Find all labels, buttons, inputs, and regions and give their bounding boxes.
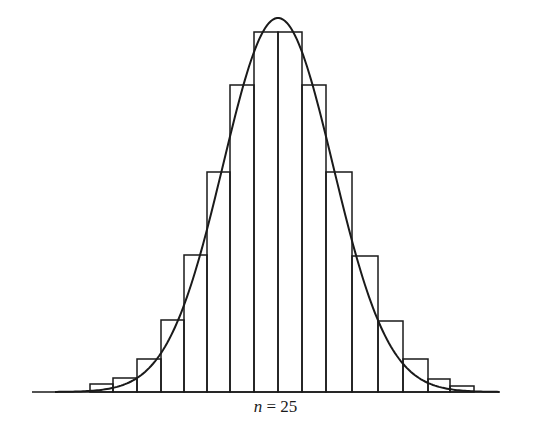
histogram-chart xyxy=(0,0,551,444)
caption-equals: = xyxy=(266,397,276,416)
histogram-bar xyxy=(352,256,378,392)
histogram-bar xyxy=(278,32,302,392)
normal-curve xyxy=(55,18,499,392)
histogram-bar xyxy=(302,85,326,392)
caption-variable: n xyxy=(254,397,263,416)
histogram-bar xyxy=(428,379,450,392)
chart-caption: n = 25 xyxy=(0,397,551,417)
histogram-bar xyxy=(207,172,230,392)
histogram-bar xyxy=(184,255,207,392)
histogram-bars xyxy=(90,32,474,392)
histogram-bar xyxy=(230,85,254,392)
histogram-bar xyxy=(326,172,352,392)
histogram-bar xyxy=(378,321,403,392)
caption-value: 25 xyxy=(280,397,297,416)
histogram-bar xyxy=(254,32,278,392)
